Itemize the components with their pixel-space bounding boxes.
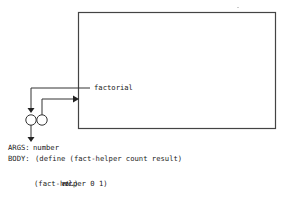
procedure-circle-code <box>26 115 36 125</box>
body-arrow-head <box>28 137 35 142</box>
binding-name-factorial: factorial <box>94 83 133 93</box>
body-label: BODY: <box>8 154 30 164</box>
speck <box>238 7 239 8</box>
global-frame-box <box>79 13 276 129</box>
procedure-circle-env <box>37 115 47 125</box>
args-label: ARGS: <box>8 143 30 153</box>
body-line-1: (define (fact-helper count result) <box>35 154 182 164</box>
environment-diagram: factorial ARGS: number BODY: (define (fa… <box>0 0 290 202</box>
env-pointer-line <box>42 99 76 115</box>
body-line-3: (fact-helper 0 1) <box>34 179 108 189</box>
diagram-lines <box>0 0 290 202</box>
args-value: number <box>33 143 59 153</box>
code-arrow-head <box>28 108 35 113</box>
